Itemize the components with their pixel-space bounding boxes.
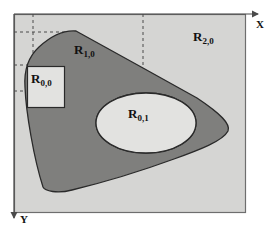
region-label-r20: R2,0: [193, 28, 214, 46]
region-label-r01: R0,1: [128, 105, 149, 123]
region-label-r00-sub: 0,0: [40, 78, 51, 88]
region-label-r10: R1,0: [74, 41, 95, 59]
y-axis-label: Y: [20, 214, 28, 225]
region-label-r20-base: R: [193, 29, 202, 44]
region-label-r01-base: R: [128, 106, 137, 121]
diagram-canvas: R2,0 R1,0 R0,1 R0,0 X Y: [0, 0, 272, 231]
region-label-r00-base: R: [31, 71, 40, 86]
region-label-r10-sub: 1,0: [83, 49, 94, 59]
region-label-r10-base: R: [74, 42, 83, 57]
region-r01-ellipse: [96, 93, 196, 153]
region-label-r20-sub: 2,0: [202, 36, 213, 46]
x-axis-label: X: [256, 19, 264, 30]
region-label-r01-sub: 0,1: [137, 113, 148, 123]
region-label-r00: R0,0: [31, 70, 52, 88]
